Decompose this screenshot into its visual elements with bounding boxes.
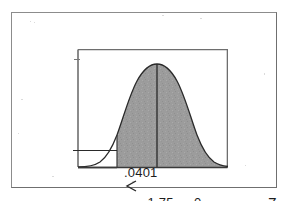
- probability-value-label: .0401: [124, 165, 158, 180]
- tick-label-zero: 0: [194, 195, 201, 201]
- shaded-probability-area: [117, 49, 228, 168]
- normal-curve-plot: .0401 -1.75 0 Z: [67, 49, 228, 156]
- probability-callout: .0401: [124, 165, 158, 180]
- left-arrow-icon: [125, 180, 141, 193]
- tick-label-neg-1-75: -1.75: [143, 195, 174, 201]
- x-axis-label-z: Z: [268, 195, 277, 201]
- figure-card: .0401 -1.75 0 Z: [11, 12, 277, 188]
